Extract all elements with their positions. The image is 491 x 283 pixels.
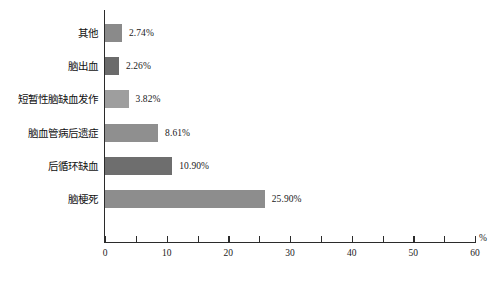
bar xyxy=(105,57,119,75)
category-label: 短暂性脑缺血发作 xyxy=(0,90,98,108)
x-tick-minor xyxy=(321,236,322,242)
bar-value-label: 2.26% xyxy=(126,61,151,71)
x-tick-major xyxy=(352,236,353,242)
bar xyxy=(105,90,129,108)
x-tick-major xyxy=(413,236,414,242)
x-tick-major xyxy=(290,236,291,242)
x-tick-label: 50 xyxy=(409,248,419,258)
category-label: 其他 xyxy=(0,24,98,42)
x-tick-minor xyxy=(136,236,137,242)
bar xyxy=(105,190,265,208)
bar-value-label: 8.61% xyxy=(165,128,190,138)
bar-row: 10.90% xyxy=(105,157,475,175)
x-tick-minor xyxy=(444,236,445,242)
bar-row: 2.74% xyxy=(105,24,475,42)
category-label: 脑血管病后遗症 xyxy=(0,124,98,142)
x-tick-minor xyxy=(383,236,384,242)
bar-row: 25.90% xyxy=(105,190,475,208)
bar-value-label: 2.74% xyxy=(129,28,154,38)
x-tick-major xyxy=(228,236,229,242)
x-tick-label: 40 xyxy=(347,248,357,258)
bar-value-label: 3.82% xyxy=(136,94,161,104)
bar-chart: 其他脑出血短暂性脑缺血发作脑血管病后遗症后循环缺血脑梗死 2.74%2.26%3… xyxy=(0,0,491,283)
x-tick-minor xyxy=(198,236,199,242)
bar-row: 2.26% xyxy=(105,57,475,75)
x-tick-label: 30 xyxy=(285,248,295,258)
bar xyxy=(105,24,122,42)
category-label: 脑出血 xyxy=(0,57,98,75)
x-tick-major xyxy=(475,236,476,242)
bar-value-label: 25.90% xyxy=(272,194,302,204)
x-tick-major xyxy=(105,236,106,242)
bar-row: 8.61% xyxy=(105,124,475,142)
category-label: 后循环缺血 xyxy=(0,157,98,175)
x-axis-line xyxy=(104,242,476,243)
x-tick-major xyxy=(167,236,168,242)
x-tick-label: 0 xyxy=(103,248,108,258)
x-tick-minor xyxy=(259,236,260,242)
bar-row: 3.82% xyxy=(105,90,475,108)
x-tick-label: 10 xyxy=(162,248,172,258)
x-tick-label: 60 xyxy=(470,248,480,258)
bar xyxy=(105,157,172,175)
x-tick-label: 20 xyxy=(224,248,234,258)
bar xyxy=(105,124,158,142)
axis-unit-label: % xyxy=(479,233,487,243)
bar-value-label: 10.90% xyxy=(179,161,209,171)
category-label: 脑梗死 xyxy=(0,190,98,208)
